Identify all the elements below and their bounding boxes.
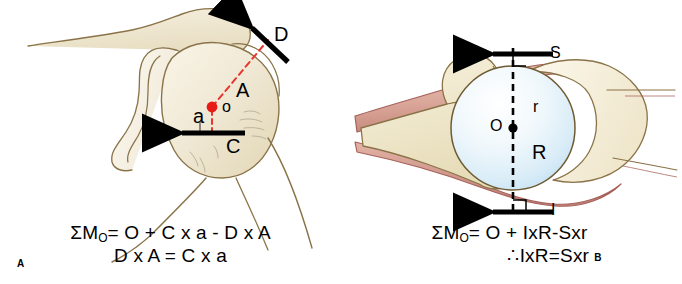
equation-b-line-1-rest: = O + IxR-Sxr bbox=[469, 222, 588, 243]
pivot-point-o bbox=[207, 102, 218, 113]
sigma-m-b: ΣM bbox=[431, 222, 459, 243]
pivot-point-O bbox=[508, 123, 517, 132]
label-pivot-o: o bbox=[222, 99, 231, 115]
equation-b-line-2: ∴IxR=SxrB bbox=[341, 245, 682, 267]
panel-tag-a: A bbox=[17, 258, 24, 269]
label-moment-arm-r: r bbox=[533, 99, 538, 115]
equation-a-line-1-rest: = O + C x a - D x A bbox=[108, 222, 271, 243]
sigma-m-a: ΣM bbox=[70, 222, 98, 243]
distal-capsule-line-inferior bbox=[623, 166, 677, 177]
label-force-C: C bbox=[226, 136, 240, 156]
panel-tag-b: B bbox=[589, 252, 601, 263]
equation-a-line-2: D x A = C x a bbox=[0, 245, 341, 267]
label-force-S: S bbox=[550, 45, 561, 61]
equation-a-line-1: ΣMO= O + C x a - D x A bbox=[0, 222, 341, 245]
figure-container: D A C a o bbox=[0, 0, 682, 284]
sigma-m-b-subscript: O bbox=[459, 231, 468, 245]
equation-block-a: ΣMO= O + C x a - D x A D x A = C x a bbox=[0, 222, 341, 267]
label-force-I: I bbox=[551, 202, 555, 218]
label-moment-arm-A: A bbox=[236, 80, 249, 100]
label-moment-arm-R: R bbox=[532, 142, 546, 162]
label-moment-arm-a: a bbox=[193, 106, 204, 126]
equation-block-b: ΣMO= O + IxR-Sxr ∴IxR=SxrB bbox=[341, 222, 682, 267]
label-force-D: D bbox=[274, 24, 288, 44]
sigma-m-a-subscript: O bbox=[98, 231, 107, 245]
equation-b-line-1: ΣMO= O + IxR-Sxr bbox=[341, 222, 682, 245]
equation-b-line-2-text: ∴IxR=Sxr bbox=[507, 245, 589, 266]
humeral-head-shape bbox=[162, 43, 279, 178]
label-pivot-O: O bbox=[490, 118, 502, 134]
